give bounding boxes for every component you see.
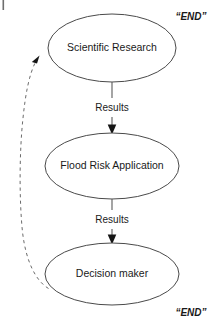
- node-label-scientific-research: Scientific Research: [67, 41, 157, 53]
- edge-label-results-2: Results: [95, 214, 128, 225]
- feedback-dashed-path: [20, 62, 48, 289]
- edge-results-research-to-application: Results: [95, 82, 128, 135]
- edge-feedback-decision-to-research: [20, 56, 48, 289]
- page-edge-tick-icon: [3, 0, 5, 10]
- end-note-bottom: “END”: [175, 307, 206, 318]
- edge-label-results-1: Results: [95, 102, 128, 113]
- end-note-top: “END”: [175, 11, 206, 22]
- node-flood-risk-application: Flood Risk Application: [45, 133, 179, 199]
- node-scientific-research: Scientific Research: [48, 14, 176, 82]
- diagram-canvas: Scientific Research Results Flood Risk A…: [0, 0, 223, 330]
- edge-results-application-to-decision: Results: [95, 199, 128, 245]
- node-label-decision-maker: Decision maker: [76, 267, 149, 279]
- node-label-flood-risk-application: Flood Risk Application: [60, 159, 163, 171]
- arrowhead-feedback-icon: [32, 56, 40, 64]
- node-decision-maker: Decision maker: [45, 243, 179, 305]
- flow-diagram-figure: Scientific Research Results Flood Risk A…: [0, 0, 223, 330]
